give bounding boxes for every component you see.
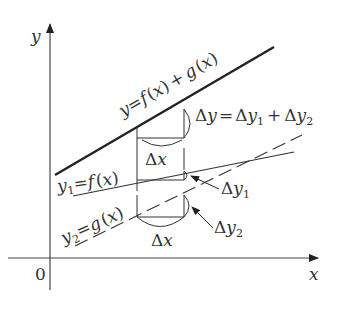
delta-x-upper-label: Δx xyxy=(145,149,167,169)
svg-text:y1=f(x): y1=f(x) xyxy=(55,168,121,200)
delta-y1-label: Δy1 xyxy=(221,178,250,201)
delta-x-lower-label: Δx xyxy=(151,230,173,250)
g-function-label: y2=g(x) xyxy=(57,202,128,251)
delta-y-sum-label: Δy=Δy1+Δy2 xyxy=(195,105,313,128)
f-function-label: y1=f(x) xyxy=(55,168,121,200)
svg-text:y2=g(x): y2=g(x) xyxy=(57,202,128,251)
sum-dx-brace xyxy=(142,140,182,146)
y-axis-label: y xyxy=(30,26,41,46)
g-dx-brace xyxy=(137,217,184,227)
dy2-pointer-arrow xyxy=(192,207,213,228)
g-function-line xyxy=(75,135,302,246)
sum-dy-brace xyxy=(184,109,190,138)
origin-label: 0 xyxy=(35,264,46,284)
delta-y2-label: Δy2 xyxy=(214,217,243,240)
x-axis-label: x xyxy=(309,264,319,284)
g-dy2-brace xyxy=(184,195,189,217)
diagram-canvas: y x 0 y=f(x)+g(x) Δy=Δy1+Δy2 Δx y1=f(x) xyxy=(0,0,350,314)
